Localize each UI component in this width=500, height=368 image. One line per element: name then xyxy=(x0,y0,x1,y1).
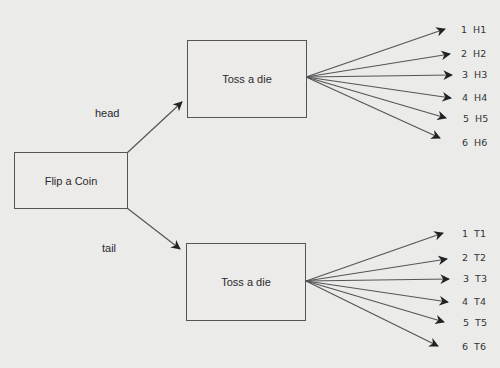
outcome-h3: 3 H3 xyxy=(462,69,487,80)
arrow-head-branch xyxy=(127,102,182,153)
outcome-h4: 4 H4 xyxy=(462,92,487,103)
die-node-heads: Toss a die xyxy=(187,40,307,118)
outcome-t1: 1 T1 xyxy=(462,228,486,239)
outcome-h2: 2 H2 xyxy=(461,48,486,59)
tree-diagram: Flip a Coin head tail Toss a die Toss a … xyxy=(0,0,500,368)
root-node-label: Flip a Coin xyxy=(45,175,98,187)
outcome-h1: 1 H1 xyxy=(461,24,486,35)
outcome-t4: 4 T4 xyxy=(462,296,486,307)
outcome-t5: 5 T5 xyxy=(463,317,487,328)
outcome-t3: 3 T3 xyxy=(463,273,487,284)
outcome-t2: 2 T2 xyxy=(462,252,486,263)
arrow-tail-branch xyxy=(127,208,180,249)
die-node-heads-label: Toss a die xyxy=(222,73,272,85)
outcome-t6: 6 T6 xyxy=(462,341,486,352)
edge-label-tail: tail xyxy=(102,242,116,254)
outcome-h6: 6 H6 xyxy=(462,137,487,148)
edge-label-head: head xyxy=(95,107,119,119)
die-node-tails: Toss a die xyxy=(186,243,306,321)
die-node-tails-label: Toss a die xyxy=(221,276,271,288)
root-node-flip-coin: Flip a Coin xyxy=(14,152,128,209)
outcome-h5: 5 H5 xyxy=(463,113,488,124)
